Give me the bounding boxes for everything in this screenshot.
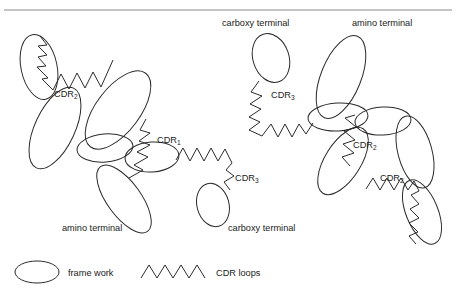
- terminal-label-carboxy: carboxy terminal: [222, 18, 289, 28]
- terminal-label-amino: amino terminal: [352, 18, 412, 28]
- framework-ellipse: [308, 119, 379, 203]
- framework-ellipse: [246, 29, 296, 88]
- cdr-subscript: 3: [291, 94, 295, 101]
- right-molecule: carboxy terminal amino terminal CDR3 CDR…: [222, 18, 450, 250]
- zigzag-glyph: [141, 265, 205, 278]
- ellipse-glyph: [15, 261, 59, 283]
- cdr-label: CDR2: [353, 140, 377, 151]
- cdr-subscript: 2: [74, 93, 78, 100]
- cdr-label: CDR2: [380, 173, 404, 184]
- figure-container: CDR2 CDR1 CDR3 amino terminal carboxy te…: [0, 0, 458, 301]
- framework-ellipse: [394, 174, 449, 249]
- figure-legend: frame work CDR loops: [15, 261, 261, 283]
- cdr-subscript: 2: [400, 177, 404, 184]
- legend-label-framework: frame work: [68, 268, 114, 278]
- cdr-loop-zigzag: [366, 178, 419, 244]
- cdr-label: CDR3: [271, 90, 295, 101]
- cdr-loop-zigzag: [176, 148, 234, 190]
- legend-label-cdr-loops: CDR loops: [216, 268, 261, 278]
- diagram-canvas: CDR2 CDR1 CDR3 amino terminal carboxy te…: [0, 0, 458, 301]
- cdr-subscript: 3: [255, 177, 259, 184]
- terminal-label-carboxy: carboxy terminal: [228, 223, 295, 233]
- cdr-label: CDR1: [157, 135, 181, 146]
- framework-ellipse: [354, 106, 411, 137]
- cdr-label: CDR2: [54, 89, 78, 100]
- terminal-label-amino: amino terminal: [62, 223, 122, 233]
- cdr-subscript: 1: [177, 139, 181, 146]
- cdr-subscript: 2: [373, 144, 377, 151]
- cdr-label: CDR3: [235, 173, 259, 184]
